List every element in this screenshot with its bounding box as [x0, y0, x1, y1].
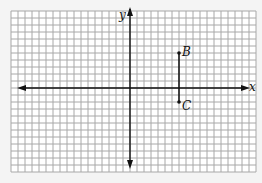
x-axis-label: x [249, 80, 256, 94]
y-axis-label: y [118, 8, 126, 22]
point-label-c: C [182, 99, 191, 113]
point-c [177, 100, 181, 104]
grid [11, 11, 256, 172]
point-b [177, 51, 181, 55]
coordinate-plane: x y BC [0, 0, 262, 183]
point-label-b: B [181, 45, 191, 59]
